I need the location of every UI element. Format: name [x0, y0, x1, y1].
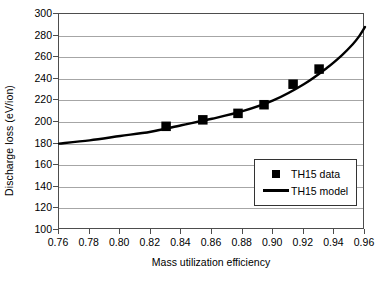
y-tick-label: 180 [26, 137, 52, 149]
line-segment-icon [261, 189, 291, 192]
x-axis-title: Mass utilization efficiency [58, 256, 364, 268]
legend-entry-th15-model: TH15 model [261, 182, 350, 199]
y-tick-label: 140 [26, 180, 52, 192]
legend-label: TH15 model [291, 185, 348, 197]
x-tick-mark [89, 229, 90, 234]
x-tick-mark [333, 229, 334, 234]
square-marker-icon [261, 170, 291, 178]
y-tick-label: 200 [26, 115, 52, 127]
y-tick-label: 120 [26, 201, 52, 213]
y-tick-label: 100 [26, 223, 52, 235]
x-tick-mark [119, 229, 120, 234]
y-tick-label: 240 [26, 72, 52, 84]
model-curve [59, 27, 365, 144]
y-tick-label: 260 [26, 50, 52, 62]
x-tick-mark [272, 229, 273, 234]
x-tick-label: 0.96 [344, 236, 384, 248]
y-tick-label: 280 [26, 29, 52, 41]
legend-label: TH15 data [291, 168, 340, 180]
chart-container: Discharge loss (eV/ion) 1001201401601802… [0, 0, 392, 281]
y-axis-tick-labels: 100120140160180200220240260280300 [24, 13, 52, 229]
x-tick-mark [180, 229, 181, 234]
x-tick-mark [150, 229, 151, 234]
x-axis-ticks: 0.760.780.800.820.840.860.880.900.920.94… [58, 229, 364, 259]
y-tick-label: 220 [26, 93, 52, 105]
legend: TH15 data TH15 model [254, 159, 357, 206]
plot-area: TH15 data TH15 model [58, 13, 364, 229]
x-tick-mark [364, 229, 365, 234]
data-point-group [161, 64, 324, 131]
legend-entry-th15-data: TH15 data [261, 165, 350, 182]
y-axis-title: Discharge loss (eV/ion) [0, 0, 18, 281]
x-tick-mark [242, 229, 243, 234]
x-tick-mark [58, 229, 59, 234]
x-tick-mark [303, 229, 304, 234]
y-tick-label: 160 [26, 158, 52, 170]
x-tick-mark [211, 229, 212, 234]
y-tick-label: 300 [26, 7, 52, 19]
